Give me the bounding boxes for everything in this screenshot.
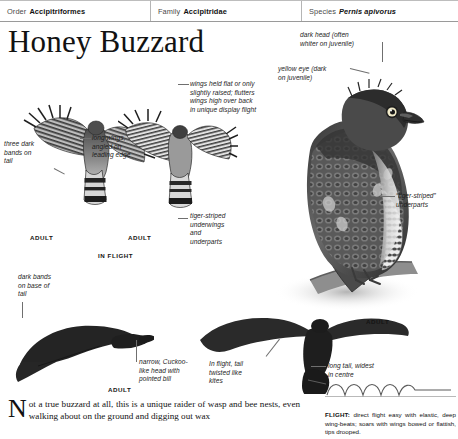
flight-pattern-diagram	[325, 381, 453, 397]
leader-long-wings	[80, 138, 91, 139]
header-label-family: Family	[158, 7, 180, 16]
species-description-text: Not a true buzzard at all, this is a uni…	[8, 398, 300, 423]
annotation-long-wings: long wings, angled on leading edge	[92, 134, 154, 160]
annotation-wings-held-flat: wings held flat or only slightly raised;…	[190, 80, 282, 115]
caption-adult-lower-right: ADULT	[366, 318, 389, 325]
header-value-order: Accipitriformes	[29, 7, 85, 16]
header-cell-species: Species Pernis apivorus	[301, 1, 458, 21]
annotation-dark-bands-base: dark bands on base of tail	[18, 273, 74, 299]
header-value-species: Pernis apivorus	[339, 7, 396, 16]
illustration-plate: three dark bands on tail long wings, ang…	[0, 22, 458, 394]
annotation-tail-twisted: In flight, tail twisted like kites	[209, 360, 267, 386]
annotation-dark-head: dark head (often whiter on juvenile)	[300, 31, 384, 48]
annotation-tiger-striped-underwings: tiger-striped underwings and underparts	[190, 212, 248, 247]
annotation-yellow-eye: yellow eye (dark on juvenile)	[278, 65, 350, 82]
annotation-tiger-striped-underparts: “tiger-striped” underparts	[396, 192, 454, 209]
flight-note: FLIGHT: direct flight easy with elastic,…	[325, 411, 456, 437]
annotation-cuckoo-head: narrow, Cuckoo- like head with pointed b…	[139, 358, 203, 384]
leader-long-tail	[311, 366, 326, 367]
leader-tiger-striped-underwings	[178, 218, 188, 219]
flight-note-label: FLIGHT:	[325, 411, 350, 418]
caption-in-flight: IN FLIGHT	[98, 252, 133, 259]
caption-adult-upper-middle: ADULT	[128, 234, 151, 241]
annotation-three-dark-bands: three dark bands on tail	[4, 140, 56, 166]
annotation-long-tail: long tail, widest in centre	[328, 362, 398, 379]
caption-adult-upper-left: ADULT	[30, 234, 53, 241]
leader-cuckoo-head	[136, 340, 137, 362]
leader-dark-bands-base	[22, 302, 23, 318]
header-label-order: Order	[7, 7, 26, 16]
gliding-buzzard-lower-left-illustration	[14, 302, 154, 394]
header-cell-order: Order Accipitriformes	[0, 1, 150, 21]
header-label-species: Species	[309, 7, 336, 16]
leader-tiger-striped-underparts	[380, 196, 395, 197]
leader-dark-head	[382, 42, 383, 62]
taxonomy-header: Order Accipitriformes Family Accipitrida…	[0, 0, 458, 22]
leader-wings-held-flat	[178, 84, 189, 85]
drop-cap: N	[8, 398, 29, 419]
header-value-family: Accipitridae	[183, 7, 227, 16]
description-body: ot a true buzzard at all, this is a uniq…	[29, 399, 300, 421]
header-cell-family: Family Accipitridae	[150, 1, 301, 21]
caption-adult-lower-left: ADULT	[108, 386, 131, 393]
